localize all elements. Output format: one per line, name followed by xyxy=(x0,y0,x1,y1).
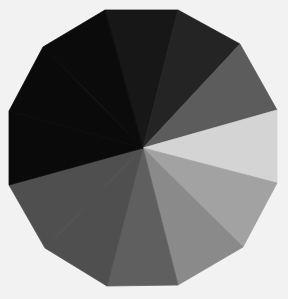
segmented-polygon-figure xyxy=(0,0,288,299)
figure-canvas xyxy=(0,0,288,299)
